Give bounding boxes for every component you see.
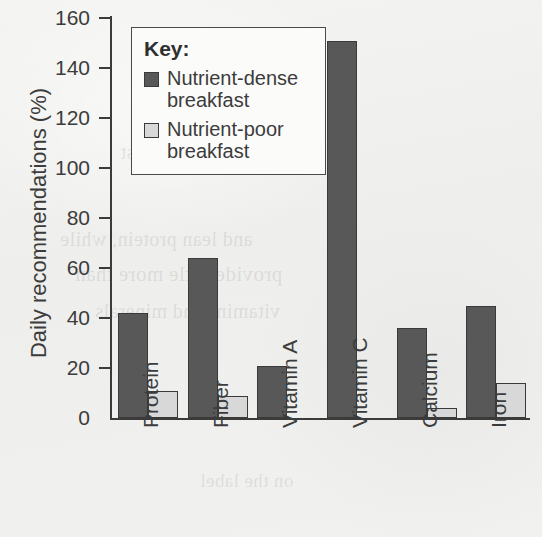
y-axis-title: Daily recommendations (%) bbox=[26, 58, 52, 388]
legend-label-line1: Nutrient-dense bbox=[167, 67, 298, 89]
y-axis-tick-label: 160 bbox=[0, 7, 90, 28]
legend-swatch-dense bbox=[144, 72, 159, 87]
x-axis-label: Calcium bbox=[418, 268, 442, 428]
legend-label-line2: breakfast bbox=[167, 140, 284, 162]
y-axis-tick bbox=[99, 167, 111, 169]
x-axis-line bbox=[110, 418, 530, 420]
x-axis-label: Iron bbox=[487, 268, 511, 428]
x-axis-label: Fiber bbox=[209, 268, 233, 428]
y-axis-tick bbox=[99, 117, 111, 119]
legend-item: Nutrient-poorbreakfast bbox=[144, 118, 313, 163]
x-axis-label: Vitamin C bbox=[348, 268, 372, 428]
legend-item-label: Nutrient-poorbreakfast bbox=[167, 118, 284, 163]
legend-swatch-poor bbox=[144, 123, 159, 138]
bar-chart: 020406080100120140160 Daily recommendati… bbox=[0, 0, 542, 537]
legend-label-line1: Nutrient-poor bbox=[167, 118, 284, 140]
legend-items: Nutrient-densebreakfastNutrient-poorbrea… bbox=[144, 67, 313, 163]
x-axis-label: Vitamin A bbox=[278, 268, 302, 428]
legend-label-line2: breakfast bbox=[167, 89, 298, 111]
y-axis-tick bbox=[99, 217, 111, 219]
y-axis-tick-label: 0 bbox=[0, 407, 90, 428]
chart-legend: Key: Nutrient-densebreakfastNutrient-poo… bbox=[131, 27, 326, 175]
y-axis-tick bbox=[99, 317, 111, 319]
legend-item-label: Nutrient-densebreakfast bbox=[167, 67, 298, 112]
y-axis-tick bbox=[99, 17, 111, 19]
y-axis-tick bbox=[99, 67, 111, 69]
legend-item: Nutrient-densebreakfast bbox=[144, 67, 313, 112]
x-axis-label: Protein bbox=[139, 268, 163, 428]
y-axis-tick bbox=[99, 367, 111, 369]
y-axis-tick bbox=[99, 267, 111, 269]
legend-title: Key: bbox=[144, 37, 313, 61]
